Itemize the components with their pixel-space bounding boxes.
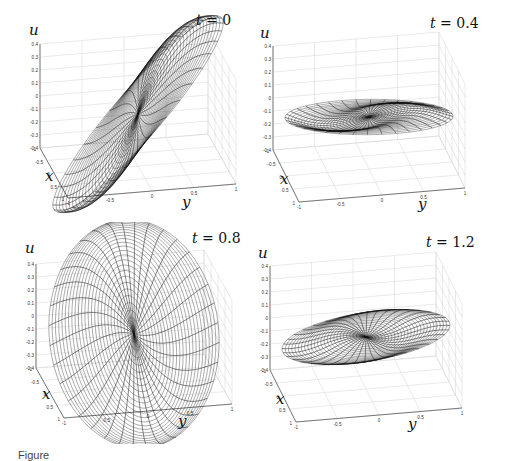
y-tick-label: 0 xyxy=(381,198,384,203)
x-tick-label: -0.5 xyxy=(268,162,276,167)
y-tick-label: -1 xyxy=(62,421,67,426)
z-axis-label: u xyxy=(25,239,35,257)
mesh-spoke xyxy=(134,222,135,334)
grid-line xyxy=(356,143,382,195)
z-tick-label: -0.1 xyxy=(263,109,271,114)
z-tick-label: -0.2 xyxy=(263,122,271,127)
surface-plot: -0.4-0.3-0.2-0.100.10.20.30.4-1-0.500.51… xyxy=(0,0,258,222)
x-tick-label: 1 xyxy=(289,421,292,426)
z-tick-label: 0.4 xyxy=(28,262,35,267)
z-tick-label: 0.4 xyxy=(265,44,272,49)
x-tick-label: -1 xyxy=(28,367,33,372)
z-tick-label: 0.1 xyxy=(265,83,272,88)
title-value: 0.4 xyxy=(456,15,478,31)
z-axis-label: u xyxy=(260,24,270,42)
z-tick-label: 0.3 xyxy=(32,55,39,60)
y-axis-label: y xyxy=(408,415,416,433)
figure-caption: Figure xyxy=(18,449,49,461)
x-tick-label: 0.5 xyxy=(51,185,58,190)
z-tick-label: 0.4 xyxy=(262,264,269,269)
z-tick-label: 0 xyxy=(31,314,34,319)
z-tick-label: 0.2 xyxy=(28,288,35,293)
surface-mesh xyxy=(49,222,219,444)
mesh-spoke xyxy=(60,334,134,384)
z-tick-label: -0.3 xyxy=(263,135,271,140)
surface-mesh xyxy=(285,99,453,134)
y-tick-label: -0.5 xyxy=(106,198,114,203)
title-variable: t xyxy=(426,234,432,250)
z-tick-label: 0.3 xyxy=(262,277,269,282)
x-tick-label: 1 xyxy=(57,417,60,422)
mesh-spoke xyxy=(138,84,192,114)
mesh-spoke xyxy=(138,31,222,114)
z-tick-label: 0.2 xyxy=(32,68,39,73)
mesh-spoke xyxy=(91,334,134,429)
z-tick-label: 0 xyxy=(35,94,38,99)
x-axis-label: x xyxy=(45,167,53,185)
z-tick-label: 0.4 xyxy=(32,42,39,47)
grid-line xyxy=(312,367,338,419)
y-tick-label: 1 xyxy=(464,191,467,196)
y-tick-label: 0.5 xyxy=(191,191,198,196)
x-tick-label: -0.5 xyxy=(31,380,39,385)
z-tick-label: 0.1 xyxy=(32,81,39,86)
z-tick-label: 0.1 xyxy=(28,301,35,306)
z-tick-label: 0 xyxy=(268,96,271,101)
mesh-spoke xyxy=(138,27,193,114)
z-tick-label: 0.3 xyxy=(28,275,35,280)
x-tick-label: 0.5 xyxy=(279,408,286,413)
title-variable: t xyxy=(192,230,198,246)
y-tick-label: 1 xyxy=(235,187,238,192)
y-tick-label: 1 xyxy=(231,407,234,412)
x-axis-label: x xyxy=(280,170,288,188)
title-value: 0.8 xyxy=(218,230,240,246)
x-tick-label: -1 xyxy=(32,147,37,152)
y-tick-label: 1 xyxy=(461,411,464,416)
title-value: 1.2 xyxy=(452,234,474,250)
x-axis-label: x xyxy=(276,390,284,408)
panel-t0.8: -0.4-0.3-0.2-0.100.10.20.30.4-1-0.500.51… xyxy=(0,222,258,444)
title-value: 0 xyxy=(222,12,231,28)
z-tick-label: -0.2 xyxy=(26,340,34,345)
y-axis-label: y xyxy=(182,193,190,211)
y-tick-label: -1 xyxy=(294,425,299,430)
panel-title: t = 0.4 xyxy=(430,15,479,31)
x-tick-label: 0.5 xyxy=(47,405,54,410)
grid-line xyxy=(395,360,421,412)
z-tick-label: 0.3 xyxy=(265,57,272,62)
grid-line xyxy=(315,147,341,199)
z-axis-label: u xyxy=(29,21,39,39)
z-tick-label: 0.2 xyxy=(265,70,272,75)
z-axis-label: u xyxy=(258,244,268,262)
x-tick-label: -0.5 xyxy=(265,382,273,387)
mesh-spoke xyxy=(134,239,177,334)
y-axis-label: y xyxy=(178,412,186,430)
mesh-spoke xyxy=(366,312,368,337)
y-tick-label: -1 xyxy=(297,205,302,210)
panel-t1.2: -0.4-0.3-0.2-0.100.10.20.30.4-1-0.500.51… xyxy=(258,222,515,444)
grid-line xyxy=(398,140,424,192)
mesh-spoke xyxy=(364,337,366,362)
title-variable: t xyxy=(196,12,202,28)
surface-mesh xyxy=(53,16,223,213)
surface-plot: -0.4-0.3-0.2-0.100.10.20.30.4-1-0.500.51… xyxy=(258,0,515,222)
mesh-spoke xyxy=(83,114,138,201)
grid-line xyxy=(353,363,379,415)
x-tick-label: 1 xyxy=(292,201,295,206)
y-tick-label: -0.5 xyxy=(334,422,342,427)
z-tick-label: -0.1 xyxy=(260,329,268,334)
panel-title: t = 1.2 xyxy=(426,234,475,250)
z-tick-label: -0.3 xyxy=(26,353,34,358)
z-tick-label: 0 xyxy=(265,316,268,321)
x-tick-label: -1 xyxy=(265,149,270,154)
mesh-spoke xyxy=(294,329,366,337)
y-axis-label: y xyxy=(418,195,426,213)
y-tick-label: 0 xyxy=(151,194,154,199)
z-tick-label: -0.1 xyxy=(30,107,38,112)
panel-title: t = 0.8 xyxy=(192,230,241,246)
grid-line xyxy=(166,138,194,188)
surface-plot: -0.4-0.3-0.2-0.100.10.20.30.4-1-0.500.51… xyxy=(0,222,258,444)
x-tick-label: 0.5 xyxy=(282,188,289,193)
z-tick-label: 0.1 xyxy=(262,303,269,308)
z-tick-label: -0.1 xyxy=(26,327,34,332)
